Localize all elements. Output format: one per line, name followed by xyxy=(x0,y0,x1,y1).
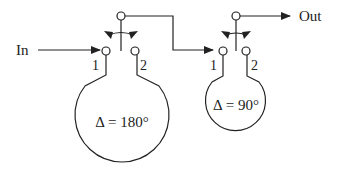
switch-arrow-right-icon xyxy=(242,31,251,39)
switch-arrow-left-icon xyxy=(104,31,113,39)
stage-1-common-terminal xyxy=(117,12,125,20)
stage-2-port-1-label: 1 xyxy=(210,58,217,73)
stage-1-port-2-label: 2 xyxy=(140,58,147,73)
interstage-connection xyxy=(125,16,213,50)
stage-1-switch xyxy=(102,12,139,55)
output-label: Out xyxy=(299,8,322,24)
stage-1-port-1-label: 1 xyxy=(92,58,99,73)
switch-arrow-left-icon xyxy=(221,31,230,39)
stage-1-port-1 xyxy=(102,47,110,55)
stage-2-port-2-label: 2 xyxy=(251,58,258,73)
stage-1-delay-line xyxy=(75,55,169,162)
stage-1-phase-label: Δ = 180° xyxy=(95,114,148,130)
stage-2-port-1 xyxy=(219,47,227,55)
input-label: In xyxy=(16,42,29,58)
stage-2-common-terminal xyxy=(232,12,240,20)
stage-1-port-2 xyxy=(131,47,139,55)
phase-shifter-diagram: In 1 2 Δ = 180° 1 2 Δ = 90° Out xyxy=(0,0,346,174)
switch-arrow-right-icon xyxy=(129,31,138,39)
stage-2-switch xyxy=(219,12,251,55)
stage-2-phase-label: Δ = 90° xyxy=(213,97,259,113)
stage-2-port-2 xyxy=(242,47,250,55)
